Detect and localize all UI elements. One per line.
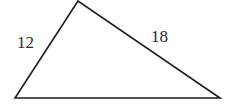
left-side-label: 12 [17,33,34,52]
right-side-label: 18 [151,27,168,46]
triangle-shape [15,1,220,98]
triangle-diagram: 12 18 [0,0,242,109]
